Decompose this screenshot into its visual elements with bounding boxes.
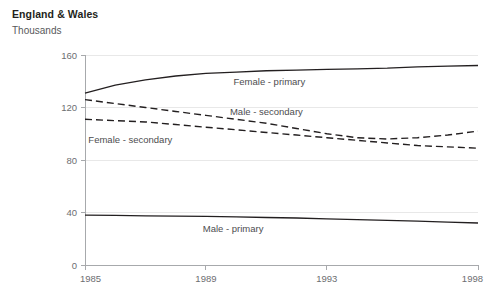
x-axis-tick-label: 1993: [316, 273, 337, 284]
x-axis-tick-label: 1985: [80, 273, 101, 284]
series-line-male-primary: [85, 215, 478, 223]
line-chart-plot: 040801201601985198919931998Female - prim…: [0, 0, 491, 290]
x-axis-tick-label: 1989: [195, 273, 216, 284]
y-axis-tick-label: 80: [66, 155, 77, 166]
series-label-male-primary: Male - primary: [203, 223, 264, 234]
y-axis-tick-label: 40: [66, 207, 77, 218]
y-axis-tick-label: 0: [72, 260, 77, 271]
series-label-male-secondary: Male - secondary: [230, 106, 303, 117]
chart-container: England & Wales Thousands 04080120160198…: [0, 0, 491, 290]
series-label-female-primary: Female - primary: [234, 76, 306, 87]
x-axis-tick-label: 1998: [462, 273, 483, 284]
y-axis-tick-label: 120: [61, 102, 77, 113]
series-label-female-secondary: Female - secondary: [88, 134, 172, 145]
y-axis-tick-label: 160: [61, 50, 77, 61]
